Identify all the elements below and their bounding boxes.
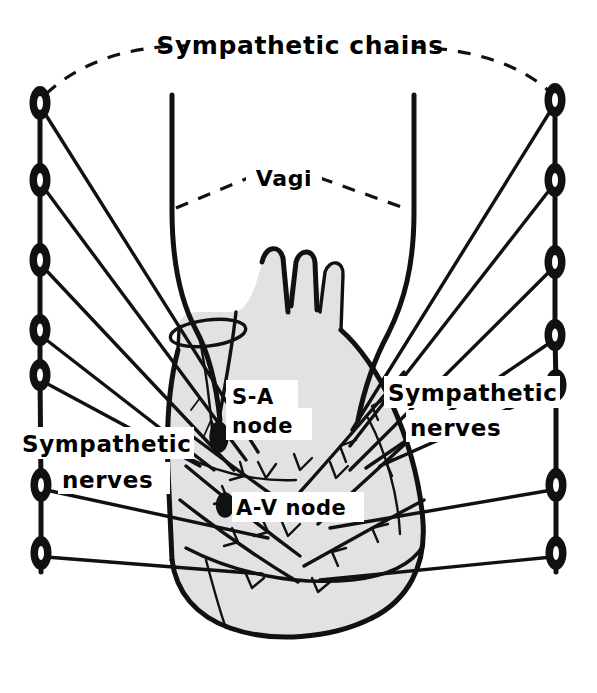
sympathetic-chains-label-text: Sympathetic chains [156,31,443,60]
ganglion [31,244,50,276]
label-av-node: A-V node [232,492,364,522]
ganglion [31,360,50,390]
vagi-label-text: Vagi [256,166,312,191]
ganglion [547,537,566,569]
ganglion [546,164,565,196]
ganglion [546,320,565,350]
anatomy-diagram-figure: Sympathetic chains Vagi S-A node A-V nod… [0,0,597,693]
sa-node-marker [210,422,228,452]
sympathetic-nerves-right-line2: nerves [410,415,501,441]
sympathetic-nerves-left-line2: nerves [62,467,153,493]
ganglion [32,537,51,569]
av-node-label-text: A-V node [236,496,346,520]
ganglion [31,315,50,345]
ganglion [31,164,50,196]
sa-node-label-line1: S-A [232,385,274,409]
ganglion [547,469,566,501]
diagram-canvas: Sympathetic chains Vagi S-A node A-V nod… [0,0,597,693]
ganglion [546,246,565,278]
label-vagi: Vagi [246,163,322,193]
label-sympathetic-chains: Sympathetic chains [156,28,443,62]
ganglion [32,469,51,501]
sympathetic-nerves-right-line1: Sympathetic [388,380,558,406]
av-node-marker [217,493,234,517]
sympathetic-nerves-left-line1: Sympathetic [22,431,192,457]
sa-node-label-line2: node [232,414,293,438]
